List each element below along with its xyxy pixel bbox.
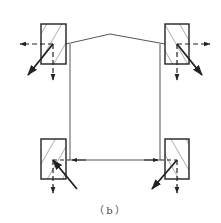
bottom-right-column — [152, 139, 189, 193]
structural-force-diagram — [0, 0, 221, 223]
bottom-left-column — [41, 139, 77, 193]
figure-caption: （b） — [0, 202, 221, 217]
roof-line — [66, 34, 165, 44]
top-left-column — [20, 24, 66, 80]
frame — [66, 34, 165, 160]
top-right-column — [165, 24, 210, 80]
